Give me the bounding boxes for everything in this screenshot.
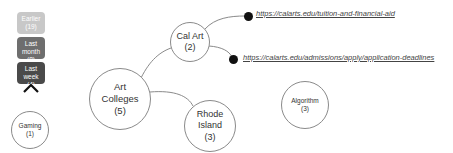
- node-cal-art-label: Cal Art: [176, 31, 203, 42]
- history-last-week-label: Last week: [17, 65, 45, 81]
- node-art-colleges-line2: Colleges: [102, 93, 139, 105]
- node-art-colleges-count: (5): [114, 105, 126, 117]
- history-last-month[interactable]: Last month (8): [17, 37, 45, 59]
- link-application-deadlines[interactable]: https://calarts.edu/admissions/apply/app…: [243, 53, 434, 62]
- history-last-week[interactable]: Last week (4): [17, 62, 45, 84]
- history-last-month-label: Last month: [17, 40, 45, 56]
- node-art-colleges[interactable]: Art Colleges (5): [89, 68, 151, 130]
- node-algorithm-label: Algorithm: [291, 97, 318, 105]
- node-gaming-label: Gaming: [19, 122, 42, 130]
- node-rhode-island-count: (3): [205, 132, 216, 143]
- node-cal-art[interactable]: Cal Art (2): [170, 22, 210, 62]
- history-earlier[interactable]: Earlier (19): [17, 12, 45, 34]
- link-node-dot-icon[interactable]: [244, 12, 253, 21]
- node-art-colleges-line1: Art: [114, 81, 126, 93]
- link-node-dot-icon[interactable]: [229, 55, 238, 64]
- node-rhode-island-line2: Island: [198, 120, 222, 131]
- node-algorithm[interactable]: Algorithm (3): [281, 81, 329, 129]
- node-rhode-island[interactable]: Rhode Island (3): [184, 100, 236, 152]
- history-earlier-label: Earlier: [17, 15, 45, 23]
- chevron-up-icon[interactable]: [23, 84, 39, 93]
- link-tuition-financial-aid[interactable]: https://calarts.edu/tuition-and-financia…: [256, 9, 395, 18]
- node-gaming-count: (1): [26, 130, 34, 138]
- node-cal-art-count: (2): [185, 42, 196, 53]
- node-rhode-island-line1: Rhode: [197, 109, 224, 120]
- node-algorithm-count: (3): [301, 105, 309, 113]
- history-earlier-count: (19): [17, 23, 45, 31]
- node-gaming[interactable]: Gaming (1): [11, 111, 49, 149]
